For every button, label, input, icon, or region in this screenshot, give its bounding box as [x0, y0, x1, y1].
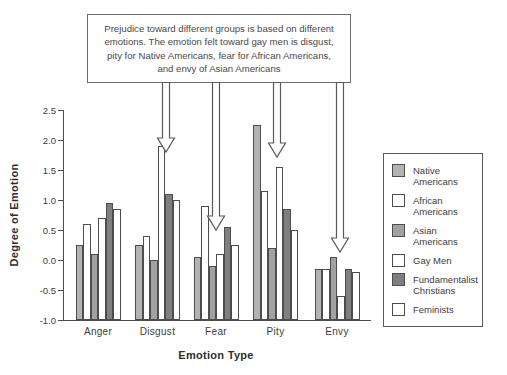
x-category-label: Pity — [246, 326, 306, 337]
legend-swatch-icon — [392, 254, 405, 267]
bar-native-americans-anger — [76, 245, 84, 320]
bar-asian-americans-anger — [91, 254, 99, 320]
x-category-label: Fear — [186, 326, 246, 337]
legend-item: Asian Americans — [392, 224, 474, 247]
x-category-label: Envy — [307, 326, 367, 337]
legend-label: Fundamentalist Christians — [413, 273, 478, 296]
x-category-label: Disgust — [128, 326, 188, 337]
prejudice-emotion-bar-chart: Prejudice toward different groups is bas… — [0, 0, 507, 375]
y-tick — [58, 170, 63, 171]
y-tick — [58, 290, 63, 291]
y-tick-label: 1.0 — [30, 195, 56, 206]
y-tick — [58, 230, 63, 231]
annotation-box: Prejudice toward different groups is bas… — [87, 14, 351, 83]
bar-asian-americans-pity — [268, 248, 276, 320]
legend-label: Asian Americans — [413, 224, 474, 247]
bar-gay-men-pity — [276, 167, 284, 320]
legend-label: African Americans — [413, 194, 474, 217]
bar-african-americans-anger — [83, 224, 91, 320]
bar-asian-americans-disgust — [150, 260, 158, 320]
legend-swatch-icon — [392, 224, 405, 237]
y-tick — [58, 110, 63, 111]
bar-african-americans-fear — [201, 206, 209, 320]
bar-fundamentalist-christians-pity — [283, 209, 291, 320]
bar-gay-men-fear — [216, 254, 224, 320]
bar-asian-americans-envy — [330, 257, 338, 320]
bar-native-americans-pity — [253, 125, 261, 320]
legend-swatch-icon — [392, 164, 405, 177]
legend-swatch-icon — [392, 273, 405, 286]
y-tick — [58, 260, 63, 261]
bar-feminists-anger — [113, 209, 121, 320]
legend-item: Gay Men — [392, 254, 474, 267]
legend-swatch-icon — [392, 194, 405, 207]
legend-item: Feminists — [392, 303, 474, 316]
bar-feminists-disgust — [173, 200, 181, 320]
y-axis-title: Degree of Emotion — [8, 164, 20, 267]
legend-label: Feminists — [413, 303, 454, 315]
y-tick — [58, 320, 63, 321]
y-tick-label: 0.5 — [30, 225, 56, 236]
bar-gay-men-envy — [337, 296, 345, 320]
y-tick-label: -1.0 — [30, 315, 56, 326]
bar-native-americans-fear — [194, 257, 202, 320]
legend-label: Native Americans — [413, 164, 474, 187]
x-category-label: Anger — [68, 326, 128, 337]
annotation-text: Prejudice toward different groups is bas… — [100, 22, 338, 76]
bar-feminists-envy — [352, 272, 360, 320]
bar-fundamentalist-christians-envy — [345, 269, 353, 320]
bar-fundamentalist-christians-anger — [106, 203, 114, 320]
legend: Native AmericansAfrican AmericansAsian A… — [383, 153, 483, 327]
y-tick-label: 0.0 — [30, 255, 56, 266]
y-tick-label: 2.0 — [30, 135, 56, 146]
x-axis-title: Emotion Type — [178, 349, 254, 361]
bar-native-americans-envy — [315, 269, 323, 320]
y-tick — [58, 140, 63, 141]
bar-fundamentalist-christians-fear — [224, 227, 232, 320]
bar-feminists-pity — [291, 230, 299, 320]
bar-native-americans-disgust — [135, 245, 143, 320]
y-tick-label: -0.5 — [30, 285, 56, 296]
bar-asian-americans-fear — [209, 266, 217, 320]
legend-item: Fundamentalist Christians — [392, 273, 474, 296]
legend-label: Gay Men — [413, 254, 452, 266]
legend-swatch-icon — [392, 303, 405, 316]
bar-african-americans-envy — [322, 269, 330, 320]
legend-item: Native Americans — [392, 164, 474, 187]
bar-fundamentalist-christians-disgust — [165, 194, 173, 320]
bar-feminists-fear — [231, 245, 239, 320]
bar-african-americans-disgust — [143, 236, 151, 320]
bar-gay-men-disgust — [158, 146, 166, 320]
bar-african-americans-pity — [261, 191, 269, 320]
y-tick-label: 1.5 — [30, 165, 56, 176]
y-tick — [58, 200, 63, 201]
plot-area: 2.52.01.51.00.50.0-0.5-1.0AngerDisgustFe… — [63, 110, 371, 321]
legend-item: African Americans — [392, 194, 474, 217]
bar-gay-men-anger — [98, 218, 106, 320]
y-tick-label: 2.5 — [30, 105, 56, 116]
